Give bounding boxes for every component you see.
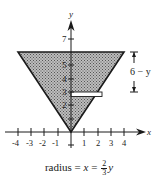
formula-fraction: 23 bbox=[101, 160, 107, 177]
y-tick-5: 5 bbox=[62, 60, 67, 70]
formula-prefix: radius = bbox=[45, 161, 84, 173]
y-tick-2: 2 bbox=[62, 100, 67, 110]
x-tick-3: 3 bbox=[109, 138, 113, 148]
x-tick-4: 4 bbox=[122, 138, 127, 148]
x-tick-neg2: -2 bbox=[39, 138, 46, 148]
x-tick-neg3: -3 bbox=[26, 138, 33, 148]
formula-y: y bbox=[108, 161, 113, 173]
cone-diagram: y x 7 5 4 3 2 -4 -3 -2 -1 1 2 3 4 6 − y bbox=[0, 0, 158, 178]
x-axis bbox=[5, 128, 146, 136]
fraction-denominator: 3 bbox=[101, 169, 107, 177]
x-tick-1: 1 bbox=[82, 138, 86, 148]
y-tick-3: 3 bbox=[62, 87, 67, 97]
dimension-label: 6 − y bbox=[130, 66, 151, 77]
horizontal-strip bbox=[71, 92, 102, 97]
x-tick-neg1: -1 bbox=[52, 138, 59, 148]
y-tick-7: 7 bbox=[62, 34, 67, 44]
x-tick-neg4: -4 bbox=[12, 138, 20, 148]
formula-eq: = bbox=[88, 161, 100, 173]
x-tick-2: 2 bbox=[96, 138, 100, 148]
radius-formula: radius = x = 23y bbox=[0, 160, 158, 177]
x-axis-label: x bbox=[146, 127, 151, 137]
y-axis-label: y bbox=[68, 9, 73, 19]
y-tick-4: 4 bbox=[62, 74, 67, 84]
